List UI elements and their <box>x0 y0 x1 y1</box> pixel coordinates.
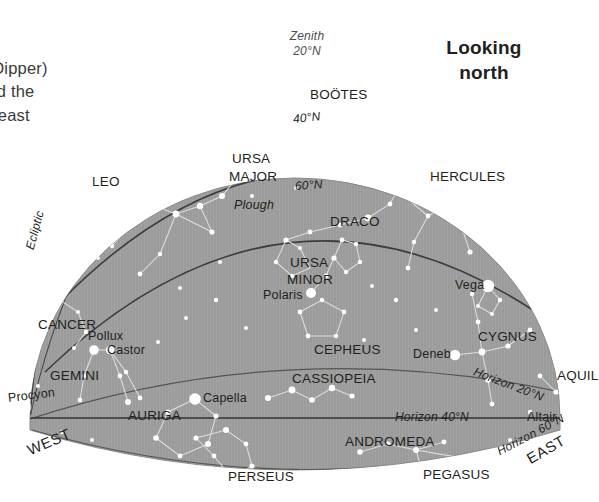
zenith-label-line-2: 20°N <box>272 44 342 59</box>
star-label-castor: Castor <box>107 344 145 357</box>
constellation-ursa-minor-line2: MINOR <box>287 273 333 287</box>
star-label-deneb: Deneb <box>413 348 451 361</box>
constellation-ursa-major-line1: URSA <box>232 152 270 166</box>
star-label-capella: Capella <box>203 392 247 405</box>
star-label-polaris: Polaris <box>263 289 303 302</box>
chart-heading-line-1: Looking <box>424 36 544 61</box>
constellation-cepheus: CEPHEUS <box>314 343 381 357</box>
sky-region <box>30 178 560 470</box>
star-label-vega: Vega <box>455 279 484 292</box>
grid-label-horizon-40n: Horizon 40°N <box>395 411 469 424</box>
chart-heading: Looking north <box>424 36 544 85</box>
constellation-leo: LEO <box>92 175 120 189</box>
constellation-ursa-minor-line1: URSA <box>290 256 328 270</box>
zenith-label-line-1: Zenith <box>272 29 342 44</box>
constellation-aquila: AQUIL <box>557 369 599 383</box>
constellation-draco: DRACO <box>330 215 380 229</box>
star-label-altair: Altair <box>527 411 557 424</box>
constellation-cygnus: CYGNUS <box>478 330 537 344</box>
plough-label: Plough <box>234 199 274 212</box>
zenith-label: Zenith 20°N <box>272 29 342 59</box>
star-label-pollux: Pollux <box>88 330 123 343</box>
constellation-pegasus: PEGASUS <box>423 468 490 482</box>
constellation-ursa-major-line2: MAJOR <box>229 170 277 184</box>
constellation-andromeda: ANDROMEDA <box>345 435 435 449</box>
constellation-hercules: HERCULES <box>430 170 505 184</box>
chart-heading-line-2: north <box>424 61 544 86</box>
caption-text: g Dipper) and the rtheast <box>0 57 48 127</box>
caption-line-2: and the <box>0 80 48 103</box>
constellation-cassiopeia: CASSIOPEIA <box>292 372 376 386</box>
constellation-bootes: BOÖTES <box>310 88 367 102</box>
caption-line-3: rtheast <box>0 104 48 127</box>
grid-label-60n: 60°N <box>295 178 323 192</box>
constellation-auriga: AURIGA <box>128 409 181 423</box>
caption-line-1: g Dipper) <box>0 57 48 80</box>
constellation-perseus: PERSEUS <box>228 470 294 484</box>
constellation-gemini: GEMINI <box>50 369 99 383</box>
grid-label-40n: 40°N <box>292 110 321 125</box>
